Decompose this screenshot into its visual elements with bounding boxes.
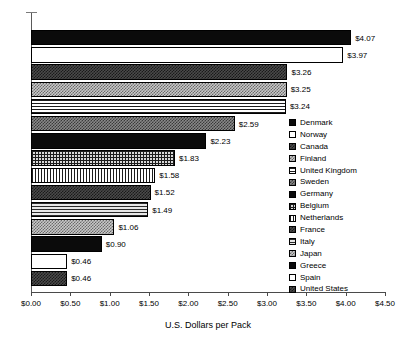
bar-value-label: $2.23 — [210, 136, 230, 145]
x-axis-tick — [149, 292, 150, 296]
bar-value-label: $1.49 — [152, 205, 172, 214]
bar-row: $0.46 — [31, 271, 137, 286]
legend-swatch-icon — [289, 215, 296, 222]
legend-swatch-icon — [289, 155, 296, 162]
legend-item-label: Germany — [300, 188, 333, 200]
bar-norway — [31, 47, 343, 62]
legend-item-label: Japan — [300, 248, 322, 260]
legend-item-netherlands[interactable]: Netherlands — [289, 212, 357, 224]
x-axis-tick-label: $4.00 — [326, 299, 366, 308]
legend-item-finland[interactable]: Finland — [289, 153, 357, 165]
x-axis-tick — [70, 292, 71, 296]
legend-item-label: Greece — [300, 260, 326, 272]
legend-swatch-icon — [289, 274, 296, 281]
bar-row: $3.97 — [31, 47, 413, 62]
bar-row: $2.23 — [31, 133, 276, 148]
bar-germany — [31, 133, 206, 148]
bar-spain — [31, 254, 67, 269]
legend-item-label: Italy — [300, 236, 315, 248]
legend-swatch-icon — [289, 238, 296, 245]
legend-item-label: Canada — [300, 141, 328, 153]
bar-value-label: $3.26 — [291, 68, 311, 77]
legend-swatch-icon — [289, 167, 296, 174]
bar-sweden — [31, 116, 235, 131]
legend-item-denmark[interactable]: Denmark — [289, 117, 357, 129]
bar-united-states — [31, 271, 67, 286]
legend-item-label: Netherlands — [300, 212, 343, 224]
x-axis-tick-label: $3.50 — [286, 299, 326, 308]
bar-row: $1.49 — [31, 202, 218, 217]
legend-item-label: Finland — [300, 153, 326, 165]
x-axis-tick — [110, 292, 111, 296]
legend-item-united-states[interactable]: United States — [289, 283, 357, 295]
x-axis-tick-label: $0.00 — [11, 299, 51, 308]
legend-item-label: Sweden — [300, 176, 329, 188]
bar-value-label: $1.58 — [159, 171, 179, 180]
bar-row: $0.90 — [31, 236, 172, 251]
legend-item-belgium[interactable]: Belgium — [289, 200, 357, 212]
legend-swatch-icon — [289, 226, 296, 233]
legend-item-france[interactable]: France — [289, 224, 357, 236]
bar-row: $1.06 — [31, 219, 184, 234]
bar-france — [31, 185, 151, 200]
legend-item-label: Spain — [300, 272, 320, 284]
legend-swatch-icon — [289, 179, 296, 186]
bar-value-label: $0.46 — [71, 274, 91, 283]
bar-belgium — [31, 150, 175, 165]
legend-item-united-kingdom[interactable]: United Kingdom — [289, 165, 357, 177]
bar-value-label: $3.97 — [347, 50, 367, 59]
bar-value-label: $2.59 — [239, 119, 259, 128]
legend-item-label: France — [300, 224, 325, 236]
bar-japan — [31, 219, 114, 234]
legend-item-japan[interactable]: Japan — [289, 248, 357, 260]
x-axis-tick-label: $1.50 — [129, 299, 169, 308]
x-axis-tick-label: $4.50 — [365, 299, 405, 308]
bar-value-label: $1.52 — [155, 188, 175, 197]
x-axis-tick — [385, 292, 386, 296]
bar-value-label: $0.90 — [106, 240, 126, 249]
bar-row: $1.52 — [31, 185, 221, 200]
legend-item-label: United States — [300, 283, 348, 295]
legend-item-norway[interactable]: Norway — [289, 129, 357, 141]
legend-item-spain[interactable]: Spain — [289, 272, 357, 284]
bar-row: $3.26 — [31, 64, 357, 79]
legend-swatch-icon — [289, 250, 296, 257]
legend-swatch-icon — [289, 191, 296, 198]
bar-row: $1.58 — [31, 168, 225, 183]
legend-item-canada[interactable]: Canada — [289, 141, 357, 153]
legend-item-label: Norway — [300, 129, 327, 141]
x-axis-tick-label: $1.00 — [90, 299, 130, 308]
bar-chart: $4.07$3.97$3.26$3.25$3.24$2.59$2.23$1.83… — [0, 0, 416, 346]
x-axis-tick — [228, 292, 229, 296]
legend-item-label: United Kingdom — [300, 165, 357, 177]
bar-value-label: $1.83 — [179, 154, 199, 163]
bar-netherlands — [31, 168, 155, 183]
bar-united-kingdom — [31, 99, 286, 114]
x-axis-tick — [31, 292, 32, 296]
legend-swatch-icon — [289, 262, 296, 269]
bar-value-label: $0.46 — [71, 257, 91, 266]
legend-item-italy[interactable]: Italy — [289, 236, 357, 248]
x-axis-tick-label: $0.50 — [50, 299, 90, 308]
x-axis-tick — [267, 292, 268, 296]
legend-swatch-icon — [289, 131, 296, 138]
x-axis-tick-label: $2.00 — [168, 299, 208, 308]
legend-item-sweden[interactable]: Sweden — [289, 176, 357, 188]
bar-greece — [31, 236, 102, 251]
legend-item-greece[interactable]: Greece — [289, 260, 357, 272]
legend-swatch-icon — [289, 203, 296, 210]
bar-denmark — [31, 30, 351, 45]
bar-finland — [31, 82, 287, 97]
legend-item-label: Belgium — [300, 200, 329, 212]
bar-italy — [31, 202, 148, 217]
bar-value-label: $3.24 — [290, 102, 310, 111]
legend-item-label: Denmark — [300, 117, 332, 129]
x-axis-title: U.S. Dollars per Pack — [0, 320, 416, 330]
bar-row: $1.83 — [31, 150, 245, 165]
bar-row: $3.24 — [31, 99, 356, 114]
x-axis-tick-label: $3.00 — [247, 299, 287, 308]
legend-swatch-icon — [289, 143, 296, 150]
legend-item-germany[interactable]: Germany — [289, 188, 357, 200]
bar-row: $0.46 — [31, 254, 137, 269]
legend-swatch-icon — [289, 119, 296, 126]
